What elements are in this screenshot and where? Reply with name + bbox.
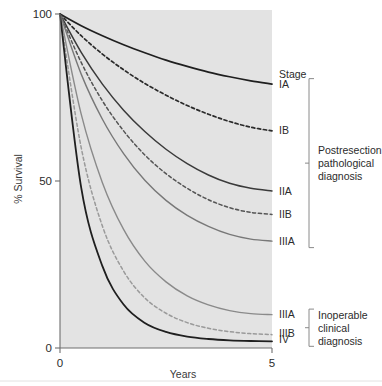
legend-label-iia: IIA xyxy=(279,185,292,197)
legend-label-iib: IIB xyxy=(279,208,292,220)
survival-curve-figure: 05010005 StageIAIBIIAIIBIIIAIIIAIIIBIVPo… xyxy=(0,0,382,386)
legend-label-ia: IA xyxy=(279,78,289,90)
y-tick-label: 100 xyxy=(33,8,52,20)
legend-label-ib: IB xyxy=(279,124,289,136)
x-tick-label: 5 xyxy=(269,357,275,369)
y-tick-label: 0 xyxy=(46,342,52,354)
legend-label-iv: IV xyxy=(279,333,289,345)
legend-label-iiia-postresection: IIIA xyxy=(279,235,295,247)
group-label-inoperable: Inoperable xyxy=(318,309,368,321)
group-label-postresection: Postresection xyxy=(318,144,382,156)
x-tick-label: 0 xyxy=(57,357,63,369)
group-label-inoperable: clinical xyxy=(318,322,350,334)
y-axis-title: % Survival xyxy=(12,154,24,204)
y-tick-label: 50 xyxy=(39,175,52,187)
group-label-inoperable: diagnosis xyxy=(318,335,362,347)
group-label-postresection: diagnosis xyxy=(318,170,362,182)
legend-label-iiia-inoperable: IIIA xyxy=(279,308,295,320)
x-axis-title: Years xyxy=(170,368,196,380)
group-label-postresection: pathological xyxy=(318,157,374,169)
